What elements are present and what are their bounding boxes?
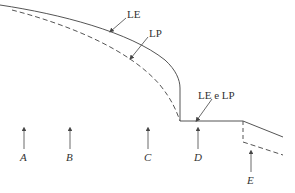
lp-label: LP bbox=[149, 27, 162, 39]
downstream-energy-line bbox=[243, 121, 283, 137]
le-lp-leader bbox=[197, 99, 212, 120]
section-b-label: B bbox=[66, 151, 73, 163]
le-lp-label: LE e LP bbox=[198, 89, 235, 101]
le-leader bbox=[111, 18, 126, 31]
energy-line bbox=[0, 5, 180, 121]
le-label: LE bbox=[127, 8, 141, 20]
section-e-label: E bbox=[246, 174, 254, 186]
downstream-piezometric-line bbox=[243, 142, 283, 155]
section-a-label: A bbox=[19, 151, 27, 163]
profile-diagram: LE LP LE e LP A B C D E bbox=[0, 0, 295, 193]
section-d-label: D bbox=[193, 151, 202, 163]
section-c-label: C bbox=[144, 151, 152, 163]
